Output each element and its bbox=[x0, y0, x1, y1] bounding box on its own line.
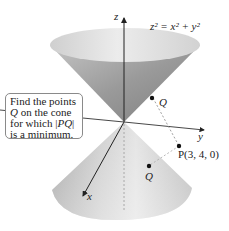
x-axis-label: x bbox=[86, 190, 92, 202]
z-axis-label: z bbox=[113, 10, 119, 22]
callout-line-4: is a minimum. bbox=[10, 129, 78, 140]
cone-equation: z² = x² + y² bbox=[149, 20, 200, 32]
point-p-label: P(3, 4, 0) bbox=[178, 148, 219, 161]
point-q-lower bbox=[147, 164, 151, 168]
upper-nappe-opening bbox=[50, 28, 200, 62]
callout-box: Find the points Q on the cone for which … bbox=[5, 93, 83, 139]
point-q-upper bbox=[150, 96, 154, 100]
double-cone-figure: z z² = x² + y² y x Q P(3, 4, 0) Q Find t… bbox=[0, 0, 229, 231]
point-q-upper-label: Q bbox=[159, 96, 167, 108]
y-axis bbox=[124, 122, 204, 130]
y-axis-label: y bbox=[197, 130, 203, 142]
point-q-lower-label: Q bbox=[145, 170, 153, 182]
